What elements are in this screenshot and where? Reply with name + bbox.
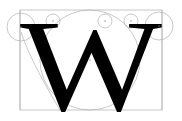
w-construction-diagram: W bbox=[0, 0, 182, 121]
glyph-w: W bbox=[20, 0, 162, 121]
